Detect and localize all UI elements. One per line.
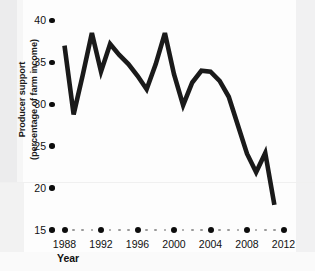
x-axis-label: Year (57, 252, 79, 264)
line-plot (0, 0, 315, 271)
series-line-producer-support (65, 33, 275, 205)
chart-figure: Producer support (percentage of farm inc… (0, 0, 315, 271)
